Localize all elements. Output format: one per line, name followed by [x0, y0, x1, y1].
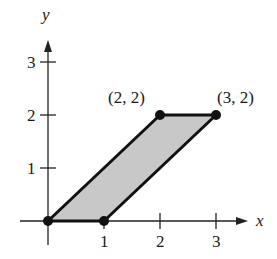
y-tick-label: 2: [27, 106, 36, 125]
x-tick-label: 3: [212, 232, 221, 251]
y-tick-label: 1: [27, 159, 36, 178]
coordinate-diagram: y x 1 2 3 1 2 3 (2, 2) (3, 2): [0, 0, 277, 259]
x-tick-label: 2: [156, 232, 165, 251]
x-tick-label: 1: [100, 232, 109, 251]
point-label-2-2: (2, 2): [108, 88, 145, 107]
x-axis-label: x: [255, 211, 264, 230]
point-label-3-2: (3, 2): [217, 88, 254, 107]
parallelogram: [48, 115, 216, 221]
y-axis-arrow-icon: [44, 40, 52, 52]
y-axis-label: y: [40, 5, 50, 24]
y-tick-label: 3: [27, 53, 36, 72]
x-axis-arrow-icon: [236, 217, 248, 225]
